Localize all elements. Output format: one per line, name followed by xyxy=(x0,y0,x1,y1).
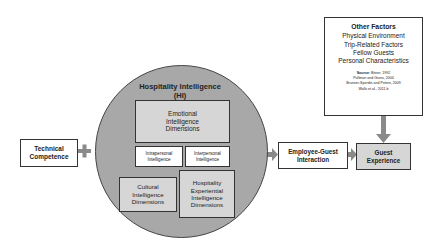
experiential-line-4: Dimensions xyxy=(191,201,223,208)
hi-title: Hospitality Intelligence (HI) xyxy=(120,82,240,100)
other-factors-item: Trip-Related Factors xyxy=(344,41,403,49)
emotional-line-1: Emotional xyxy=(168,110,197,118)
hi-title-line-2: (HI) xyxy=(120,91,240,100)
intrapersonal-line-2: Intelligence xyxy=(147,157,170,163)
employee-guest-line-1: Employee-Guest xyxy=(288,148,338,156)
technical-competence-line-1: Technical xyxy=(34,145,64,153)
hi-title-line-1: Hospitality Intelligence xyxy=(120,82,240,91)
interpersonal-line-2: Intelligence xyxy=(196,157,219,163)
technical-competence-box: Technical Competence xyxy=(20,139,78,167)
intrapersonal-intelligence-box: Intrapersonal Intelligence xyxy=(135,146,183,167)
arrow-down-icon xyxy=(376,115,391,143)
cultural-line-1: Cultural xyxy=(137,183,158,190)
experiential-line-2: Experiential xyxy=(191,187,223,194)
employee-guest-interaction-box: Employee-Guest Interaction xyxy=(278,142,348,169)
guest-experience-line-1: Guest xyxy=(375,149,393,157)
hospitality-experiential-intelligence-box: Hospitality Experiential Intelligence Di… xyxy=(179,170,235,218)
source-citation: Walls et al., 2011 b xyxy=(346,87,401,92)
other-factors-title: Other Factors xyxy=(351,23,396,31)
source-citation: Brunner-Sperdin and Peters, 2009 xyxy=(346,81,401,86)
emotional-line-3: Dimensions xyxy=(166,125,200,133)
arrow-right-icon xyxy=(267,148,278,161)
guest-experience-line-2: Experience xyxy=(367,157,401,165)
other-factors-item: Physical Environment xyxy=(342,32,405,40)
emotional-line-2: Intelligence xyxy=(166,118,199,126)
guest-experience-box: Guest Experience xyxy=(356,143,411,170)
source-label: Source: xyxy=(357,71,370,75)
other-factors-item: Fellow Guests xyxy=(353,49,394,57)
experiential-line-1: Hospitality xyxy=(193,179,222,186)
source-citations: Source: Bitner, 1992 Pullman and Gross, … xyxy=(346,71,401,92)
other-factors-item: Personal Characteristics xyxy=(338,57,408,65)
cultural-line-3: Dimensions xyxy=(132,198,164,205)
emotional-intelligence-box: Emotional Intelligence Dimensions xyxy=(135,100,230,143)
cultural-line-2: Intelligence xyxy=(132,191,163,198)
experiential-line-3: Intelligence xyxy=(191,194,222,201)
source-citation: Bitner, 1992 xyxy=(371,71,390,75)
interpersonal-intelligence-box: Interpersonal Intelligence xyxy=(185,146,230,167)
employee-guest-line-2: Interaction xyxy=(297,156,329,164)
cultural-intelligence-box: Cultural Intelligence Dimensions xyxy=(119,177,177,212)
other-factors-box: Other Factors Physical Environment Trip-… xyxy=(324,17,423,116)
plus-icon xyxy=(78,145,91,158)
technical-competence-line-2: Competence xyxy=(29,153,68,161)
